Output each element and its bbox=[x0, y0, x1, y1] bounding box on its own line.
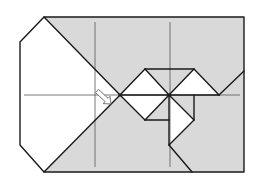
origami-diagram bbox=[0, 0, 263, 189]
pivot-point bbox=[167, 93, 170, 96]
pivot-point bbox=[118, 93, 121, 96]
